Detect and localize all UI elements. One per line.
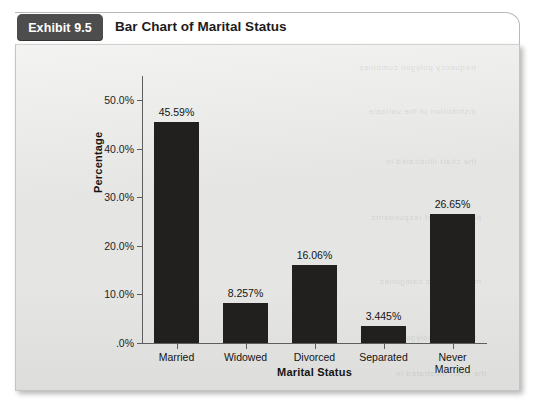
y-axis-title: Percentage [92, 132, 104, 193]
bar-value-label: 3.445% [366, 310, 402, 322]
bar-value-label: 16.06% [297, 249, 333, 261]
y-axis-tick [137, 197, 142, 198]
bar-value-label: 8.257% [228, 287, 264, 299]
y-axis-tick [137, 149, 142, 150]
x-axis-tick [384, 344, 385, 349]
bar [223, 303, 268, 343]
bar-value-label: 45.59% [159, 106, 195, 118]
y-axis-tick-label: 40.0% [104, 143, 134, 155]
x-axis-category-label: Married [159, 351, 195, 363]
exhibit-panel: Exhibit 9.5 Bar Chart of Marital Status … [15, 12, 520, 391]
y-axis-tick-label: 30.0% [104, 191, 134, 203]
bar [430, 214, 475, 343]
y-axis-tick [137, 246, 142, 247]
x-axis-tick [453, 344, 454, 349]
x-axis-category-label: Separated [359, 351, 407, 363]
y-axis-tick [137, 343, 142, 344]
y-axis-tick-label: .0% [116, 337, 134, 349]
y-axis-tick [137, 294, 142, 295]
x-axis-tick [315, 344, 316, 349]
plot-area: .0%10.0%20.0%30.0%40.0%50.0% 45.59%8.257… [142, 76, 487, 343]
chart-canvas: frequency polygon combines distribution … [15, 44, 520, 391]
bar-value-label: 26.65% [435, 198, 471, 210]
x-axis-tick [246, 344, 247, 349]
y-axis-tick-label: 20.0% [104, 240, 134, 252]
exhibit-header: Exhibit 9.5 Bar Chart of Marital Status [15, 12, 520, 45]
x-axis-category-label: Widowed [224, 351, 267, 363]
exhibit-title: Bar Chart of Marital Status [115, 19, 287, 34]
page-bleed-text: frequency polygon combines [46, 63, 476, 72]
bar [361, 326, 406, 343]
y-axis-tick [137, 100, 142, 101]
x-axis-category-label: Never Married [435, 351, 471, 375]
y-axis-tick-label: 50.0% [104, 94, 134, 106]
x-axis-tick [177, 344, 178, 349]
bar [154, 122, 199, 343]
exhibit-number-tab: Exhibit 9.5 [17, 14, 103, 41]
y-axis-tick-label: 10.0% [104, 288, 134, 300]
bar [292, 265, 337, 343]
y-axis-line [142, 76, 143, 344]
x-axis-category-label: Divorced [294, 351, 335, 363]
